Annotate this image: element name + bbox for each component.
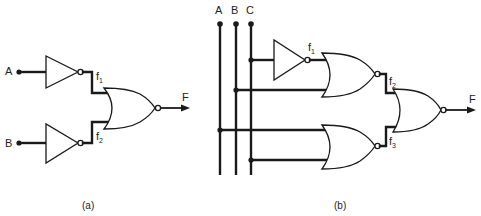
output-label-b: F: [469, 93, 476, 105]
junction-c-2: [248, 157, 253, 162]
junction-a: [217, 127, 222, 132]
panel-a: A f1 B f2 F (a): [5, 56, 190, 211]
not-gate-1: [46, 56, 78, 88]
not-gate-b: [274, 40, 305, 80]
nor-bubble-a: [155, 105, 160, 110]
output-arrow-b-icon: [467, 107, 476, 114]
panel-b: A B C f1 f2 f3: [215, 4, 476, 211]
nor-gate-a: [104, 88, 155, 129]
bus-terminal-a: [217, 21, 223, 27]
logic-circuit-diagram: A f1 B f2 F (a) A B C: [0, 0, 481, 216]
nor-gate-2: [322, 125, 375, 169]
wire-f1: [83, 72, 107, 93]
bus-terminal-c: [248, 21, 254, 27]
signal-label-f1: f1: [96, 70, 103, 84]
input-label-b: B: [5, 137, 12, 149]
junction-b: [233, 87, 238, 92]
nor-gate-1: [322, 53, 375, 97]
junction-c-1: [248, 57, 253, 62]
input-label-a: A: [5, 65, 13, 77]
output-label-a: F: [182, 91, 189, 103]
output-arrow-a-icon: [181, 105, 190, 112]
bus-label-c: C: [246, 4, 254, 16]
bus-terminal-b: [233, 21, 239, 27]
caption-a: (a): [82, 200, 94, 211]
not-gate-2: [46, 124, 78, 163]
signal-label-f2-b: f2: [389, 75, 396, 89]
bus-label-b: B: [231, 4, 238, 16]
signal-label-f3-b: f3: [389, 135, 396, 149]
signal-label-f1-b: f1: [308, 41, 315, 55]
bus-label-a: A: [215, 4, 223, 16]
nor-gate-3: [393, 89, 441, 132]
wire-f2: [83, 122, 107, 143]
signal-label-f2: f2: [96, 130, 103, 144]
caption-b: (b): [334, 200, 346, 211]
